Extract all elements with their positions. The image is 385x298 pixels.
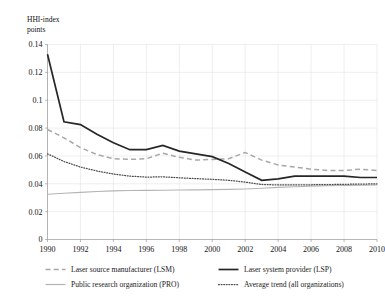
legend-row-2: Public research organization (PRO) Avera…	[0, 277, 385, 292]
legend-swatch-lsp	[218, 265, 239, 274]
x-tick-1990: 1990	[40, 245, 56, 254]
x-tick-1996: 1996	[138, 245, 154, 254]
x-tick-2000: 2000	[204, 245, 220, 254]
legend-label-avg: Average trend (all organizations)	[244, 280, 344, 289]
x-tick-2006: 2006	[303, 245, 319, 254]
legend-label-lsm: Laser source manufacturer (LSM)	[71, 265, 175, 274]
legend-item-lsp: Laser system provider (LSP)	[197, 265, 385, 274]
x-tick-1992: 1992	[72, 245, 88, 254]
legend-swatch-avg	[218, 280, 239, 289]
x-axis-tick-labels: 1990199219941996199820002002200420062008…	[40, 245, 385, 254]
legend-label-pro: Public research organization (PRO)	[71, 280, 179, 289]
line-chart: HHI-index points 00.020.040.060.080.10.1…	[0, 0, 385, 298]
chart-plot-area: 00.020.040.060.080.10.120.14 19901992199…	[0, 0, 385, 262]
y-tick-0.02: 0.02	[29, 208, 43, 217]
legend-row-1: Laser source manufacturer (LSM) Laser sy…	[0, 262, 385, 277]
y-tick-0: 0	[39, 235, 43, 244]
y-axis-title: HHI-index points	[27, 15, 60, 34]
x-tick-1994: 1994	[105, 245, 121, 254]
x-tick-2002: 2002	[237, 245, 253, 254]
y-tick-0.08: 0.08	[29, 124, 43, 133]
legend-item-avg: Average trend (all organizations)	[197, 280, 385, 289]
axis-lines	[45, 45, 377, 243]
x-tick-1998: 1998	[171, 245, 187, 254]
y-tick-0.12: 0.12	[29, 68, 43, 77]
legend-item-lsm: Laser source manufacturer (LSM)	[0, 265, 197, 274]
gridlines	[48, 45, 378, 240]
y-tick-0.06: 0.06	[29, 152, 43, 161]
legend-swatch-lsm	[45, 265, 66, 274]
legend-swatch-pro	[45, 280, 66, 289]
y-tick-0.04: 0.04	[29, 180, 43, 189]
y-tick-0.14: 0.14	[29, 40, 43, 49]
x-tick-2004: 2004	[270, 245, 286, 254]
chart-legend: Laser source manufacturer (LSM) Laser sy…	[0, 262, 385, 296]
y-tick-0.1: 0.1	[33, 96, 43, 105]
legend-label-lsp: Laser system provider (LSP)	[244, 265, 332, 274]
x-tick-2010: 2010	[369, 245, 385, 254]
legend-item-pro: Public research organization (PRO)	[0, 280, 197, 289]
x-tick-2008: 2008	[336, 245, 352, 254]
y-axis-tick-labels: 00.020.040.060.080.10.120.14	[29, 40, 43, 244]
